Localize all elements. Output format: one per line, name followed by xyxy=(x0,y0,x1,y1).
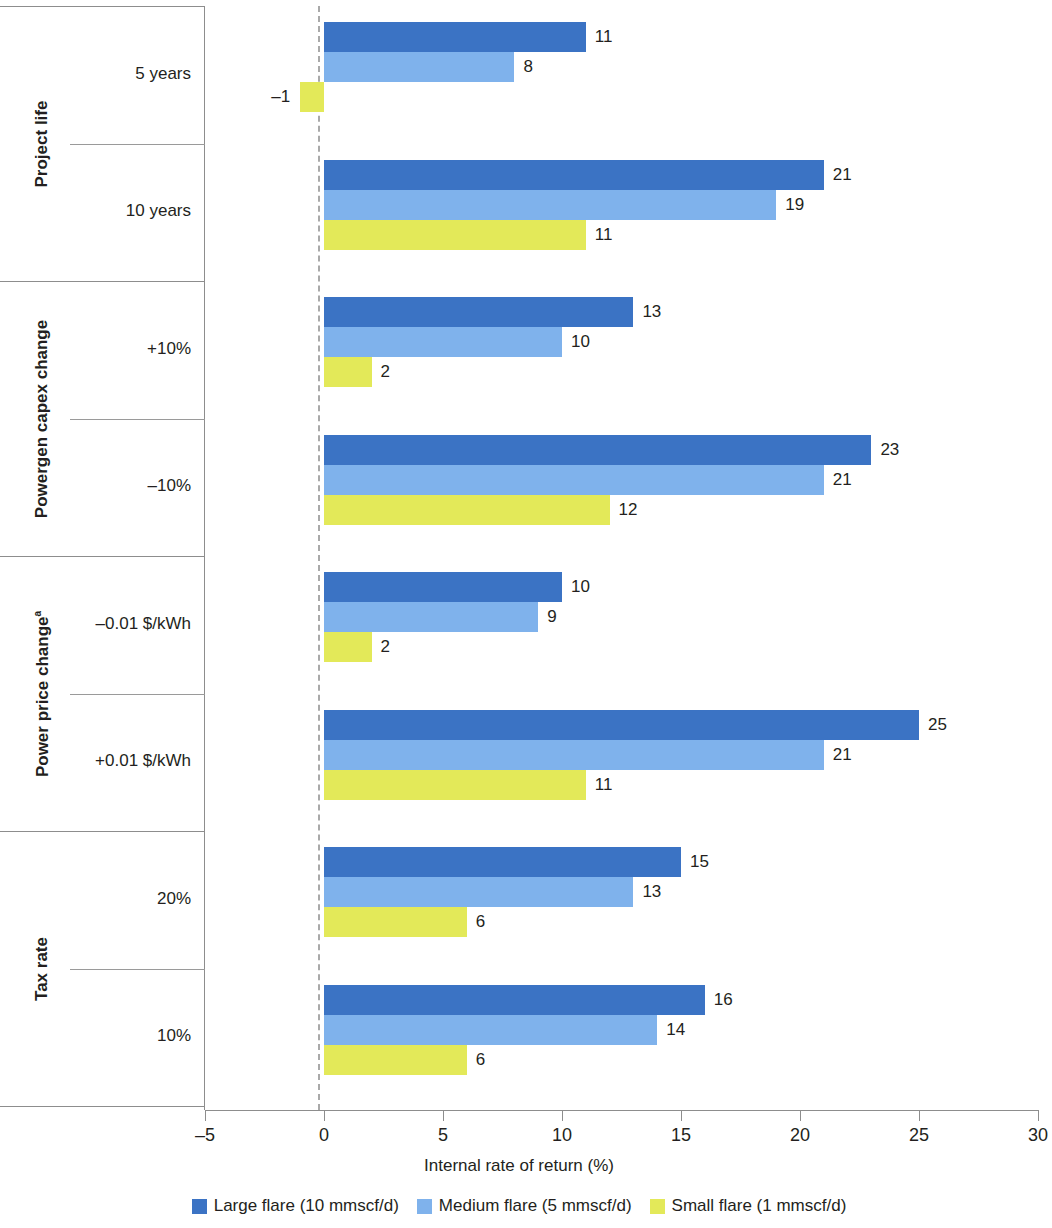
value-axis-tick-label: 30 xyxy=(1008,1125,1052,1146)
bar xyxy=(324,632,372,662)
category-group-separator xyxy=(0,831,205,832)
value-axis-tick-label: 15 xyxy=(651,1125,711,1146)
bar xyxy=(324,770,586,800)
bar xyxy=(324,1015,657,1045)
bar xyxy=(324,297,633,327)
value-axis-tick xyxy=(919,1110,920,1121)
legend-item[interactable]: Small flare (1 mmscf/d) xyxy=(650,1196,847,1216)
bar xyxy=(324,160,824,190)
bar-value-label: 12 xyxy=(619,495,638,525)
value-axis-tick-label: 20 xyxy=(770,1125,830,1146)
bar-value-label: 11 xyxy=(595,770,613,800)
plot-area: 118–121191113102232112109225211115136161… xyxy=(205,6,1038,1110)
footnote-marker: a xyxy=(32,610,43,616)
category-group-title: Project life xyxy=(32,6,52,282)
bar-value-label: 13 xyxy=(642,877,661,907)
category-group-separator xyxy=(0,6,205,7)
value-axis-tick-label: 10 xyxy=(532,1125,592,1146)
value-axis-tick-label: –5 xyxy=(175,1125,235,1146)
value-axis-tick-label: 5 xyxy=(413,1125,473,1146)
legend-swatch-icon xyxy=(650,1199,665,1214)
bar xyxy=(324,740,824,770)
category-group-separator xyxy=(0,556,205,557)
bar-value-label: 23 xyxy=(880,435,899,465)
legend-item[interactable]: Large flare (10 mmscf/d) xyxy=(192,1196,399,1216)
bar-value-label: 2 xyxy=(381,632,390,662)
legend-label: Medium flare (5 mmscf/d) xyxy=(439,1196,632,1216)
bar-value-label: 10 xyxy=(571,572,590,602)
category-label: 5 years xyxy=(135,64,191,84)
category-row-separator xyxy=(70,419,205,420)
bar-value-label: 11 xyxy=(595,220,613,250)
bar-value-label: 15 xyxy=(690,847,709,877)
value-axis-tick xyxy=(800,1110,801,1121)
legend-label: Small flare (1 mmscf/d) xyxy=(672,1196,847,1216)
bar-value-label: 10 xyxy=(571,327,590,357)
bar-value-label: 16 xyxy=(714,985,733,1015)
bar-value-label: 14 xyxy=(666,1015,685,1045)
bar xyxy=(324,465,824,495)
bar-value-label: 21 xyxy=(833,740,852,770)
value-axis-line xyxy=(205,1110,1038,1111)
bar xyxy=(324,847,681,877)
value-axis-tick xyxy=(205,1110,206,1121)
bar-value-label: 25 xyxy=(928,710,947,740)
bar xyxy=(324,220,586,250)
bar xyxy=(324,327,562,357)
category-row-separator xyxy=(70,144,205,145)
category-label: +0.01 $/kWh xyxy=(95,751,191,771)
value-axis-tick-label: 0 xyxy=(294,1125,354,1146)
category-label: –0.01 $/kWh xyxy=(96,614,191,634)
category-label: 20% xyxy=(157,889,191,909)
bar xyxy=(324,985,705,1015)
legend-swatch-icon xyxy=(192,1199,207,1214)
bar xyxy=(324,907,467,937)
category-group-title: Tax rate xyxy=(32,831,52,1107)
bar xyxy=(324,52,514,82)
bar-value-label: 9 xyxy=(547,602,556,632)
category-label: +10% xyxy=(147,339,191,359)
bar xyxy=(324,602,538,632)
category-label: –10% xyxy=(148,476,191,496)
bar xyxy=(324,572,562,602)
category-label: 10% xyxy=(157,1026,191,1046)
bar xyxy=(324,22,586,52)
category-group-separator xyxy=(0,1106,205,1107)
bar xyxy=(324,877,633,907)
bar-value-label: 6 xyxy=(476,1045,485,1075)
category-group-title: Power price changea xyxy=(32,556,53,832)
value-axis-title: Internal rate of return (%) xyxy=(0,1156,1038,1176)
bar-value-label: 11 xyxy=(595,22,613,52)
bar xyxy=(324,710,919,740)
legend-label: Large flare (10 mmscf/d) xyxy=(214,1196,399,1216)
value-axis-tick xyxy=(562,1110,563,1121)
legend-item[interactable]: Medium flare (5 mmscf/d) xyxy=(417,1196,632,1216)
category-axis: Project life5 years10 yearsPowergen cape… xyxy=(0,6,205,1110)
category-label: 10 years xyxy=(126,201,191,221)
zero-reference-line xyxy=(318,6,320,1110)
value-axis-tick xyxy=(324,1110,325,1121)
bar xyxy=(324,1045,467,1075)
value-axis-tick-label: 25 xyxy=(889,1125,949,1146)
bar-value-label: 21 xyxy=(833,160,852,190)
bar xyxy=(300,82,324,112)
category-group-title: Powergen capex change xyxy=(32,281,52,557)
category-group-separator xyxy=(0,281,205,282)
legend-swatch-icon xyxy=(417,1199,432,1214)
bar-value-label: 21 xyxy=(833,465,852,495)
bar xyxy=(324,435,871,465)
bar xyxy=(324,495,610,525)
value-axis-tick xyxy=(681,1110,682,1121)
bar-value-label: 8 xyxy=(523,52,532,82)
value-axis-tick xyxy=(1038,1110,1039,1121)
bar-value-label: 13 xyxy=(642,297,661,327)
bar xyxy=(324,190,776,220)
legend: Large flare (10 mmscf/d)Medium flare (5 … xyxy=(0,1196,1038,1216)
value-axis-tick xyxy=(443,1110,444,1121)
category-row-separator xyxy=(70,694,205,695)
category-row-separator xyxy=(70,969,205,970)
bar-value-label: 6 xyxy=(476,907,485,937)
bar xyxy=(324,357,372,387)
bar-value-label: 2 xyxy=(381,357,390,387)
